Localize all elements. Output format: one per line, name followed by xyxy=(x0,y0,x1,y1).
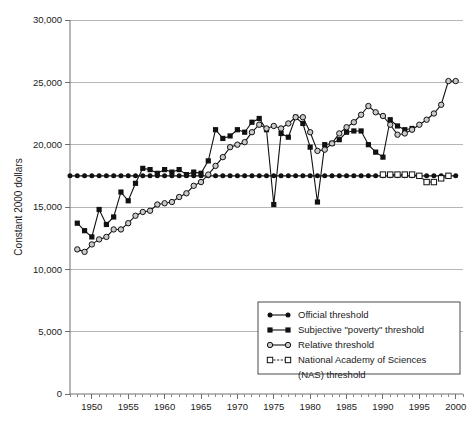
data-point xyxy=(431,179,436,184)
data-point xyxy=(140,209,145,214)
data-point xyxy=(104,222,109,227)
data-point xyxy=(184,191,189,196)
data-point xyxy=(147,208,152,213)
data-point xyxy=(82,228,87,233)
data-point xyxy=(409,127,414,132)
x-tick-label: 1965 xyxy=(190,401,211,412)
y-tick-label: 15,000 xyxy=(33,201,62,212)
data-point xyxy=(286,173,291,178)
data-point xyxy=(453,173,458,178)
data-point xyxy=(315,148,320,153)
data-point xyxy=(300,173,305,178)
data-point xyxy=(235,127,240,132)
data-point xyxy=(228,133,233,138)
y-axis-title: Constant 2000 dollars xyxy=(13,158,24,255)
data-point xyxy=(279,173,284,178)
data-point xyxy=(257,173,262,178)
data-point xyxy=(206,172,211,177)
legend-label: National Academy of Sciences xyxy=(298,354,427,365)
data-point xyxy=(278,126,283,131)
data-point xyxy=(68,173,73,178)
data-point xyxy=(97,173,102,178)
data-point xyxy=(111,227,116,232)
data-point xyxy=(330,173,335,178)
data-point xyxy=(337,131,342,136)
data-point xyxy=(213,173,218,178)
data-point xyxy=(267,357,272,362)
data-point xyxy=(271,123,276,128)
data-point xyxy=(177,167,182,172)
data-point xyxy=(227,144,232,149)
data-point xyxy=(147,167,152,172)
data-point xyxy=(373,110,378,115)
data-point xyxy=(257,116,262,121)
legend-label: Official threshold xyxy=(298,309,369,320)
data-point xyxy=(366,103,371,108)
data-point xyxy=(213,127,218,132)
data-point xyxy=(337,137,342,142)
y-axis-title-text: Constant 2000 dollars xyxy=(13,158,24,255)
data-point xyxy=(104,173,109,178)
data-point xyxy=(285,342,290,347)
data-point xyxy=(293,115,298,120)
data-point xyxy=(438,176,443,181)
data-point xyxy=(249,120,254,125)
x-axis: 1950195519601965197019751980198519901995… xyxy=(70,394,466,412)
data-point xyxy=(359,128,364,133)
data-point xyxy=(351,128,356,133)
data-point xyxy=(380,172,385,177)
x-tick-label: 1985 xyxy=(336,401,357,412)
data-point xyxy=(257,122,262,127)
data-point xyxy=(177,173,182,178)
data-point xyxy=(118,173,123,178)
line-chart: 05,00010,00015,00020,00025,00030,000 195… xyxy=(0,0,476,422)
data-point xyxy=(213,163,218,168)
data-point xyxy=(118,227,123,232)
data-point xyxy=(75,173,80,178)
data-point xyxy=(308,145,313,150)
data-point xyxy=(184,172,189,177)
y-tick-label: 30,000 xyxy=(33,14,62,25)
data-point xyxy=(402,172,407,177)
data-point xyxy=(344,125,349,130)
data-point xyxy=(111,173,116,178)
data-point xyxy=(271,173,276,178)
x-tick-label: 2000 xyxy=(445,401,466,412)
data-point xyxy=(126,173,131,178)
data-point xyxy=(307,130,312,135)
data-point xyxy=(293,173,298,178)
data-point xyxy=(388,172,393,177)
data-point xyxy=(409,172,414,177)
data-point xyxy=(242,130,247,135)
data-point xyxy=(148,173,153,178)
data-point xyxy=(264,173,269,178)
data-point xyxy=(322,147,327,152)
data-point xyxy=(126,221,131,226)
data-point xyxy=(438,102,443,107)
data-point xyxy=(285,327,290,332)
data-point xyxy=(249,130,254,135)
y-tick-label: 10,000 xyxy=(33,264,62,275)
data-point xyxy=(242,139,247,144)
data-point xyxy=(366,142,371,147)
data-point xyxy=(191,183,196,188)
data-point xyxy=(140,166,145,171)
data-point xyxy=(285,357,290,362)
y-axis: 05,00010,00015,00020,00025,00030,000 xyxy=(33,14,70,399)
data-point xyxy=(424,173,429,178)
data-point xyxy=(242,173,247,178)
data-point xyxy=(264,126,269,131)
data-point xyxy=(322,173,327,178)
data-point xyxy=(162,201,167,206)
data-point xyxy=(126,198,131,203)
data-point xyxy=(220,136,225,141)
legend-entry[interactable]: (NAS) threshold xyxy=(298,369,366,380)
data-point xyxy=(140,173,145,178)
data-point xyxy=(271,202,276,207)
data-point xyxy=(373,173,378,178)
data-point xyxy=(191,169,196,174)
x-tick-label: 1970 xyxy=(227,401,248,412)
legend-label: Subjective "poverty" threshold xyxy=(298,324,424,335)
series-layer xyxy=(68,78,459,254)
data-point xyxy=(82,173,87,178)
